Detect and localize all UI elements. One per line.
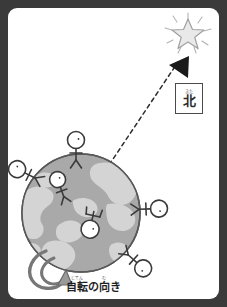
scene-svg: [8, 8, 219, 299]
illustration-frame: きた 北 じてん 自転 の む 向 き: [0, 0, 227, 307]
earth-axis-dashed-line: [105, 62, 178, 171]
rotation-caption-tail: き: [110, 282, 121, 293]
illustration-canvas: きた 北 じてん 自転 の む 向 き: [8, 8, 219, 299]
north-label-box: きた 北: [175, 83, 203, 114]
polaris-star-icon: [172, 19, 204, 49]
north-kanji: 北: [183, 94, 196, 107]
north-label-ruby: きた 北: [183, 90, 196, 108]
rotation-caption-part1: じてん 自転: [66, 277, 88, 293]
rotation-caption-part1-kanji: 自転: [66, 282, 88, 293]
rotation-direction-caption: じてん 自転 の む 向 き: [66, 277, 121, 293]
rotation-caption-part2-kanji: 向: [99, 282, 110, 293]
axis-pointer-arrow: [169, 56, 189, 78]
rotation-caption-part2: む 向: [99, 277, 110, 293]
rotation-caption-particle: の: [88, 282, 99, 293]
